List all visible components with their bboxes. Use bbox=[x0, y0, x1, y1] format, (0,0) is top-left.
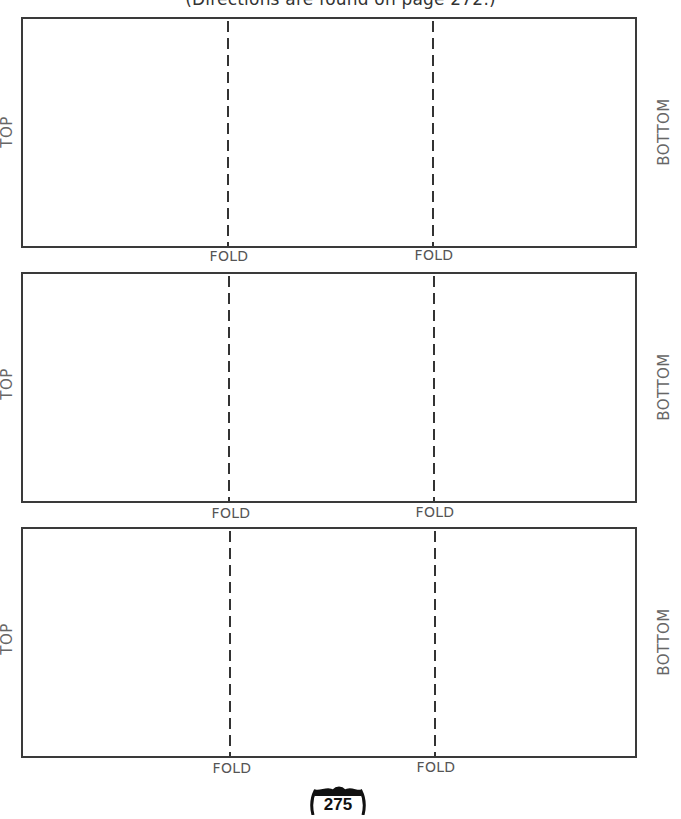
bottom-label: BOTTOM bbox=[655, 98, 673, 166]
fold-line-left bbox=[229, 531, 231, 756]
foldable-panel-1 bbox=[21, 17, 637, 248]
fold-line-left bbox=[228, 276, 230, 501]
fold-line-left bbox=[227, 21, 229, 246]
fold-label-right: FOLD bbox=[417, 759, 456, 775]
page-number-badge: 275 bbox=[309, 785, 367, 815]
fold-line-right bbox=[433, 276, 435, 501]
top-label: TOP bbox=[0, 623, 16, 655]
fold-line-right bbox=[432, 21, 434, 246]
page-number: 275 bbox=[309, 795, 367, 815]
fold-label-right: FOLD bbox=[416, 504, 455, 520]
fold-line-right bbox=[434, 531, 436, 756]
fold-label-left: FOLD bbox=[212, 505, 251, 521]
bottom-label: BOTTOM bbox=[655, 353, 673, 421]
foldable-panel-3 bbox=[21, 527, 637, 758]
foldable-panel-2 bbox=[21, 272, 637, 503]
top-label: TOP bbox=[0, 116, 16, 148]
fold-label-right: FOLD bbox=[415, 247, 454, 263]
fold-label-left: FOLD bbox=[210, 248, 249, 264]
top-label: TOP bbox=[0, 368, 16, 400]
fold-label-left: FOLD bbox=[213, 760, 252, 776]
directions-note: (Directions are found on page 272.) bbox=[0, 0, 681, 9]
bottom-label: BOTTOM bbox=[655, 608, 673, 676]
